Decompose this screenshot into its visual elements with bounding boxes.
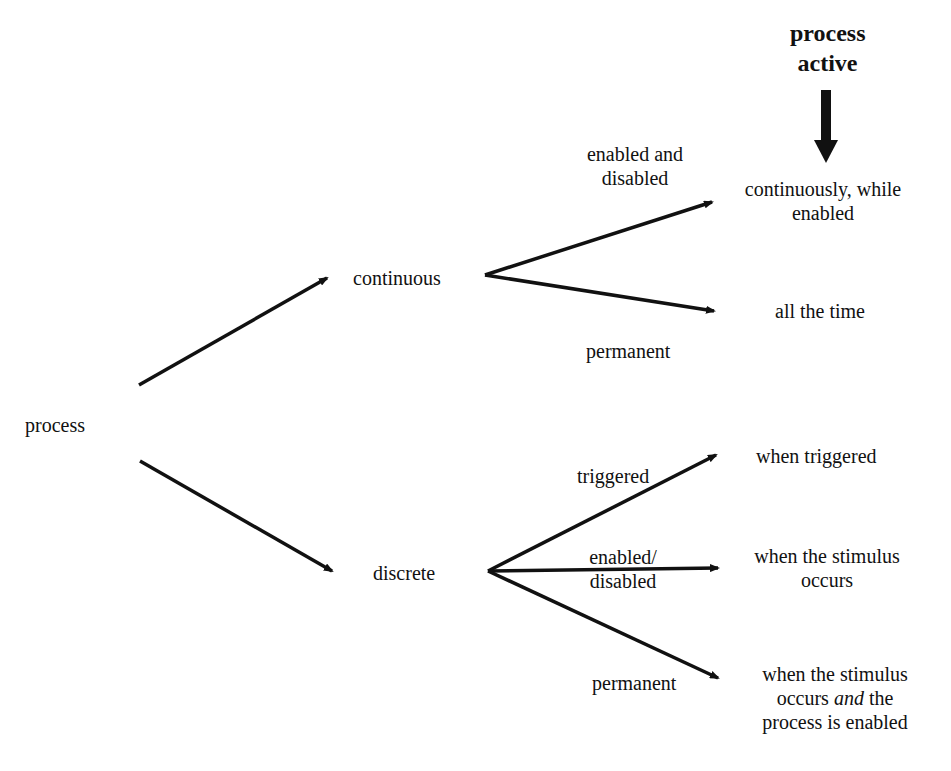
arrow-continuous-enabled: [485, 202, 712, 275]
outcome-when-stimulus-occurs: when the stimulus occurs: [738, 544, 916, 592]
arrow-continuous-permanent: [485, 275, 714, 311]
diagram-arrows: [0, 0, 951, 771]
edge-label-permanent-continuous: permanent: [586, 339, 670, 363]
node-process: process: [25, 413, 85, 437]
edge-label-enabled-disabled: enabled/ disabled: [580, 545, 666, 593]
edge-label-permanent-discrete: permanent: [592, 671, 676, 695]
outcome-stimulus-and-enabled: when the stimulus occurs and the process…: [740, 662, 930, 734]
outcome-when-triggered: when triggered: [756, 444, 877, 468]
arrow-process-to-continuous: [139, 278, 327, 385]
process-active-arrow: [814, 90, 838, 163]
edge-label-triggered: triggered: [577, 464, 649, 488]
node-discrete: discrete: [373, 561, 435, 585]
arrow-process-to-discrete: [140, 461, 332, 571]
node-continuous: continuous: [353, 266, 441, 290]
outcome-all-the-time: all the time: [775, 299, 865, 323]
edge-label-enabled-and-disabled: enabled and disabled: [570, 142, 700, 190]
process-active-label: process active: [790, 18, 865, 78]
outcome-continuously-while-enabled: continuously, while enabled: [728, 177, 918, 225]
